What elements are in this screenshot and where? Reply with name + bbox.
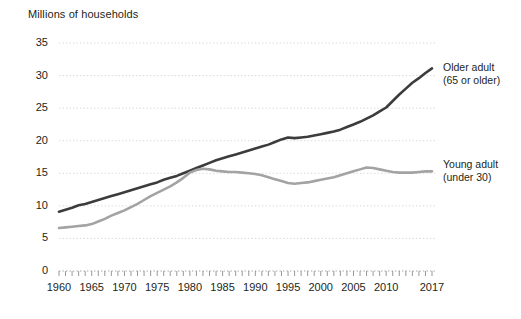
y-tick-label: 10 (22, 200, 48, 211)
y-tick-label: 5 (22, 232, 48, 243)
gridlines-group (59, 43, 437, 271)
legend-line-primary: Older adult (443, 61, 500, 74)
x-tick-label: 2017 (412, 282, 452, 293)
chart-container: Millions of households 05101520253035 19… (0, 0, 521, 319)
x-tickmarks-group (59, 271, 432, 276)
y-tick-label: 15 (22, 167, 48, 178)
y-tick-label: 35 (22, 37, 48, 48)
legend-label-older-adult: Older adult(65 or older) (443, 61, 500, 88)
y-tick-label: 0 (22, 265, 48, 276)
legend-line-secondary: (under 30) (443, 171, 498, 184)
legend-line-primary: Young adult (443, 158, 498, 171)
y-tick-label: 30 (22, 70, 48, 81)
series-line-young-adult (59, 167, 432, 228)
series-lines-group (59, 68, 432, 228)
y-tick-label: 20 (22, 135, 48, 146)
legend-label-young-adult: Young adult(under 30) (443, 158, 498, 185)
y-tick-label: 25 (22, 102, 48, 113)
legend-line-secondary: (65 or older) (443, 74, 500, 87)
x-tick-label: 2010 (366, 282, 406, 293)
series-line-older-adult (59, 68, 432, 211)
